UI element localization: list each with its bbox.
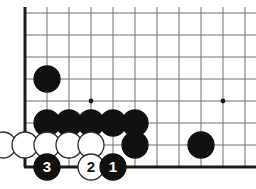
star-point-left <box>89 99 94 104</box>
move-number-label: 2 <box>87 158 95 175</box>
black-stone-disc <box>188 132 214 158</box>
move-number-label: 3 <box>43 158 51 175</box>
move-stone-1[interactable]: 1 <box>100 154 126 180</box>
star-point-right <box>221 99 226 104</box>
black-stone-disc <box>34 66 60 92</box>
black-stone-g[interactable] <box>122 132 148 158</box>
go-board-svg: 321 <box>0 0 256 189</box>
black-stone-h[interactable] <box>188 132 214 158</box>
black-stone-a[interactable] <box>34 66 60 92</box>
black-stone-disc <box>122 132 148 158</box>
go-diagram-container: 321 <box>0 0 256 189</box>
move-stone-3[interactable]: 3 <box>34 154 60 180</box>
move-number-label: 1 <box>109 158 117 175</box>
